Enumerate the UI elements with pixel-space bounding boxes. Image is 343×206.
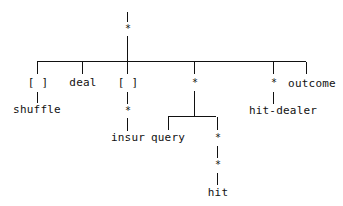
query-connector xyxy=(168,117,169,130)
hit-connector-top xyxy=(217,117,218,130)
root-star-marker: * xyxy=(125,24,131,34)
node-hit: hit xyxy=(208,187,228,199)
hit-dealer-connector-top xyxy=(273,62,274,74)
hit-dealer-star-marker: * xyxy=(271,78,277,88)
shuffle-connector-top xyxy=(37,62,38,74)
node-insur: insur xyxy=(111,132,145,144)
insur-star-marker: * xyxy=(125,106,131,116)
main-sibling-bar xyxy=(37,61,306,62)
insur-connector-bottom xyxy=(127,118,128,131)
shuffle-optional-marker: [ ] xyxy=(28,77,48,89)
node-outcome: outcome xyxy=(288,78,336,90)
hit-dealer-connector-bottom xyxy=(273,92,274,104)
node-query: query xyxy=(151,132,185,144)
node-shuffle: shuffle xyxy=(13,104,61,116)
shuffle-connector-bottom xyxy=(37,92,38,103)
hit-star-marker-1: * xyxy=(215,133,221,143)
hit-connector-bottom xyxy=(217,173,218,185)
insur-connector-mid xyxy=(127,92,128,104)
deal-connector xyxy=(82,62,83,74)
outcome-connector xyxy=(306,62,307,74)
root-connector-bottom xyxy=(127,36,128,62)
hit-connector-mid xyxy=(217,146,218,158)
insur-connector-top xyxy=(127,62,128,74)
group-connector-bottom xyxy=(194,91,195,117)
sub-sibling-bar xyxy=(168,116,216,117)
insur-optional-marker: [ ] xyxy=(118,77,138,89)
node-deal: deal xyxy=(69,77,96,89)
group-star-marker: * xyxy=(192,78,198,88)
hit-star-marker-2: * xyxy=(215,160,221,170)
node-hit-dealer: hit-dealer xyxy=(249,105,317,117)
root-connector-top xyxy=(127,12,128,22)
group-connector-top xyxy=(194,62,195,74)
